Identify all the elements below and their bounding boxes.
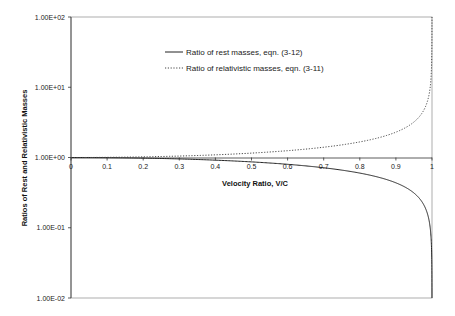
x-tick-label: 0.8 bbox=[355, 163, 365, 170]
y-tick-label: 1.00E+02 bbox=[35, 14, 65, 21]
chart: 1.00E+021.00E+011.00E+001.00E-011.00E-02… bbox=[0, 0, 455, 316]
y-tick-label: 1.00E-01 bbox=[37, 224, 66, 231]
x-tick-label: 0.1 bbox=[102, 163, 112, 170]
x-tick-label: 0.9 bbox=[391, 163, 401, 170]
y-tick-label: 1.00E-02 bbox=[37, 295, 66, 302]
x-tick-label: 1 bbox=[430, 163, 434, 170]
y-ticks: 1.00E+021.00E+011.00E+001.00E-011.00E-02 bbox=[35, 14, 71, 302]
legend-label-rest: Ratio of rest masses, eqn. (3-12) bbox=[186, 48, 303, 57]
legend-label-relativistic: Ratio of relativistic masses, eqn. (3-11… bbox=[186, 64, 324, 73]
y-tick-label: 1.00E+00 bbox=[35, 154, 65, 161]
x-tick-label: 0.4 bbox=[211, 163, 221, 170]
legend: Ratio of rest masses, eqn. (3-12) Ratio … bbox=[165, 48, 324, 73]
x-tick-label: 0.5 bbox=[247, 163, 257, 170]
x-tick-label: 0.2 bbox=[138, 163, 148, 170]
x-tick-label: 0.3 bbox=[174, 163, 184, 170]
series-relativistic-masses bbox=[71, 17, 432, 158]
x-tick-label: 0 bbox=[69, 163, 73, 170]
y-axis-label: Ratios of Rest and Relativistic Masses bbox=[20, 90, 29, 227]
x-ticks: 00.10.20.30.40.50.60.70.80.91 bbox=[69, 158, 434, 170]
x-axis-label: Velocity Ratio, V/C bbox=[222, 179, 288, 188]
y-tick-label: 1.00E+01 bbox=[35, 84, 65, 91]
